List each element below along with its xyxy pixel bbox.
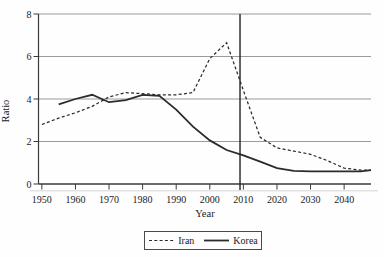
legend-label-korea: Korea bbox=[233, 235, 257, 246]
x-tick-label: 2040 bbox=[334, 194, 354, 205]
y-tick-label: 8 bbox=[27, 9, 32, 20]
korea-solid-line-sample bbox=[203, 236, 230, 245]
series-group bbox=[42, 43, 371, 172]
x-tick-label: 1980 bbox=[133, 194, 153, 205]
series-line-iran bbox=[42, 43, 371, 171]
x-tick-label: 2020 bbox=[267, 194, 287, 205]
x-axis-title: Year bbox=[195, 208, 215, 219]
x-tick-label: 1950 bbox=[32, 194, 52, 205]
legend-label-iran: Iran bbox=[178, 235, 194, 246]
figure-container: 0246819501960197019801990200020102020203… bbox=[0, 0, 384, 257]
iran-dashed-line-sample bbox=[148, 236, 175, 245]
legend-item-iran: Iran bbox=[148, 235, 194, 246]
legend-box: Iran Korea bbox=[144, 231, 262, 250]
x-tick-label: 1960 bbox=[65, 194, 85, 205]
x-tick-label: 2030 bbox=[301, 194, 321, 205]
y-axis-title: Ratio bbox=[0, 100, 11, 123]
tick-labels-group: 0246819501960197019801990200020102020203… bbox=[27, 9, 355, 205]
x-tick-label: 2010 bbox=[233, 194, 253, 205]
x-tick-label: 2000 bbox=[200, 194, 220, 205]
legend-item-korea: Korea bbox=[203, 235, 257, 246]
y-tick-label: 0 bbox=[27, 179, 32, 190]
y-tick-label: 2 bbox=[27, 136, 32, 147]
y-tick-label: 4 bbox=[27, 94, 32, 105]
x-tick-label: 1990 bbox=[166, 194, 186, 205]
grid-group bbox=[30, 14, 378, 191]
y-tick-label: 6 bbox=[27, 51, 32, 62]
x-tick-label: 1970 bbox=[99, 194, 119, 205]
axes-group bbox=[34, 14, 372, 190]
chart-svg: 0246819501960197019801990200020102020203… bbox=[0, 0, 384, 257]
